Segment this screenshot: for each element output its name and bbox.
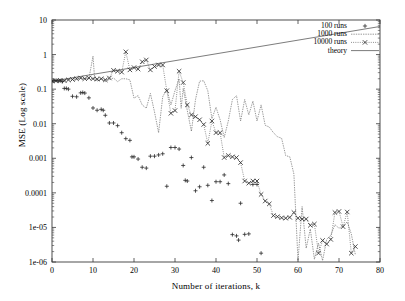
x-tick-label: 80 (376, 266, 384, 275)
y-tick-label: 1 (43, 51, 47, 60)
x-tick-label: 40 (212, 266, 220, 275)
legend-label-3: theory (328, 46, 347, 55)
y-tick-label: 10 (39, 16, 47, 25)
x-tick-label: 0 (50, 266, 54, 275)
x-axis-label: Number of iterations, k (52, 281, 380, 291)
y-tick-label: 1e-05 (29, 223, 47, 232)
y-tick-label: 0.0001 (25, 189, 47, 198)
y-axis-label: MSE (Log scale) (17, 55, 27, 175)
x-tick-label: 60 (294, 266, 302, 275)
x-tick-label: 10 (89, 266, 97, 275)
chart-figure: 01020304050607080 1e-061e-050.00010.0010… (0, 0, 405, 301)
x-tick-label: 30 (171, 266, 179, 275)
y-tick-label: 0.1 (37, 85, 47, 94)
y-tick-label: 0.001 (29, 154, 47, 163)
x-tick-label: 70 (335, 266, 343, 275)
x-tick-label: 20 (130, 266, 138, 275)
y-tick-label: 1e-06 (29, 258, 47, 267)
y-tick-label: 0.01 (33, 120, 47, 129)
x-tick-label: 50 (253, 266, 261, 275)
chart-canvas: 01020304050607080 1e-061e-050.00010.0010… (0, 0, 405, 301)
